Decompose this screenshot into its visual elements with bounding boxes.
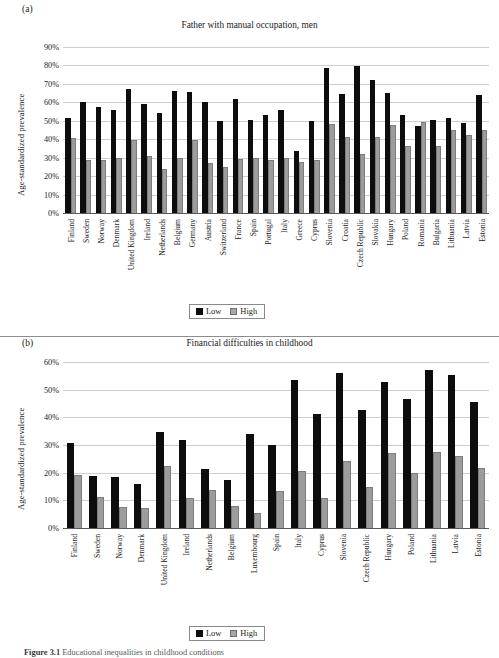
- bar-high: [329, 124, 334, 213]
- x-axis-tick-label: Spain: [249, 219, 258, 236]
- bar-high: [478, 468, 486, 528]
- bar-low: [134, 484, 142, 528]
- y-axis-tick-label: 30%: [44, 441, 59, 450]
- x-axis-tick-label: Finland: [70, 534, 79, 557]
- x-axis-tick-label: Slovakia: [370, 219, 379, 246]
- x-axis-tick-label: Slovenia: [339, 534, 348, 561]
- bar-low: [156, 432, 164, 528]
- bar-high: [209, 490, 217, 528]
- bar-high: [186, 498, 194, 528]
- bar-group: [242, 362, 264, 528]
- bar-group: [413, 47, 428, 213]
- panel-divider: [0, 336, 499, 337]
- bar-high: [482, 130, 487, 213]
- bar-low: [201, 469, 209, 528]
- bar-low: [179, 440, 187, 528]
- bar-group: [246, 47, 261, 213]
- bar-low: [291, 380, 299, 528]
- bar-group: [467, 362, 489, 528]
- x-axis-tick: Hungary: [383, 217, 398, 287]
- panel-a-legend: Low High: [189, 304, 265, 319]
- y-axis-tick-label: 20%: [44, 468, 59, 477]
- x-axis-tick-label: Lithuania: [428, 534, 437, 563]
- x-axis-tick: Netherlands: [154, 217, 169, 287]
- x-axis-tick-label: Portugal: [264, 219, 273, 245]
- x-axis-tick: Lithuania: [422, 532, 444, 602]
- bar-group: [108, 362, 130, 528]
- x-axis-tick: Spain: [265, 532, 287, 602]
- x-axis-tick-label: Slovenia: [325, 219, 334, 246]
- x-axis-tick-label: Hungary: [386, 219, 395, 246]
- y-axis-tick-label: 60%: [44, 358, 59, 367]
- x-axis-tick: Ireland: [139, 217, 154, 287]
- x-axis-tick: Switzerland: [215, 217, 230, 287]
- bar-group: [307, 47, 322, 213]
- bar-high: [208, 163, 213, 213]
- x-axis-tick-label: Romania: [416, 219, 425, 246]
- bar-low: [246, 434, 254, 528]
- x-axis-tick: Denmark: [109, 217, 124, 287]
- bar-group: [354, 362, 376, 528]
- x-axis-tick: Estonia: [467, 532, 489, 602]
- x-axis-tick: Sweden: [85, 532, 107, 602]
- x-axis-tick: United Kingdom: [153, 532, 175, 602]
- x-axis-tick: Lithuania: [443, 217, 458, 287]
- bar-group: [261, 47, 276, 213]
- bar-group: [220, 362, 242, 528]
- panel-b-bars: [63, 362, 489, 528]
- bar-high: [405, 146, 410, 213]
- bar-group: [367, 47, 382, 213]
- legend-item-high: High: [230, 629, 257, 638]
- x-axis-tick: Poland: [399, 532, 421, 602]
- y-axis-tick-label: 40%: [44, 135, 59, 144]
- bar-group: [153, 362, 175, 528]
- y-axis-tick-label: 50%: [44, 116, 59, 125]
- bar-low: [111, 477, 119, 528]
- figure-container: (a) Father with manual occupation, men A…: [0, 0, 499, 658]
- bar-high: [74, 475, 82, 528]
- x-axis-tick-label: Latvia: [462, 219, 471, 238]
- bar-low: [268, 445, 276, 528]
- bar-high: [366, 487, 374, 528]
- x-axis-tick: Greece: [291, 217, 306, 287]
- y-axis-tick-label: 0%: [48, 524, 59, 533]
- y-axis-tick-label: 70%: [44, 79, 59, 88]
- bar-group: [443, 47, 458, 213]
- bar-low: [470, 402, 478, 528]
- bar-high: [455, 456, 463, 528]
- gridline: [63, 213, 489, 214]
- x-axis-tick-label: Lithuania: [447, 219, 456, 248]
- legend-label-low: Low: [206, 629, 221, 638]
- bar-high: [162, 169, 167, 213]
- bar-group: [170, 47, 185, 213]
- bar-high: [147, 156, 152, 213]
- bar-high: [253, 158, 258, 213]
- x-axis-tick: United Kingdom: [124, 217, 139, 287]
- x-axis-tick-label: Greece: [294, 219, 303, 241]
- panel-a-x-axis-labels: FinlandSwedenNorwayDenmarkUnited Kingdom…: [63, 217, 489, 287]
- legend-swatch-low-icon: [196, 308, 203, 315]
- bar-low: [448, 375, 456, 528]
- x-axis-tick-label: Netherlands: [204, 534, 213, 571]
- x-axis-tick-label: Ireland: [142, 219, 151, 241]
- x-axis-tick: Belgium: [170, 217, 185, 287]
- x-axis-tick-label: Estonia: [477, 219, 486, 242]
- x-axis-tick: Spain: [246, 217, 261, 287]
- bar-high: [421, 122, 426, 213]
- bar-high: [268, 160, 273, 213]
- y-axis-tick-label: 80%: [44, 61, 59, 70]
- legend-swatch-high-icon: [230, 308, 237, 315]
- bar-high: [238, 159, 243, 213]
- bar-low: [89, 476, 97, 528]
- panel-a-letter: (a): [22, 4, 33, 14]
- y-axis-tick-label: 20%: [44, 172, 59, 181]
- bar-high: [141, 508, 149, 528]
- bar-low: [403, 399, 411, 528]
- x-axis-tick: Croatia: [337, 217, 352, 287]
- x-axis-tick: Norway: [108, 532, 130, 602]
- x-axis-tick-label: Spain: [272, 534, 281, 551]
- bar-high: [466, 135, 471, 213]
- x-axis-tick-label: Latvia: [451, 534, 460, 553]
- legend-item-low: Low: [196, 307, 221, 316]
- x-axis-tick: Finland: [63, 217, 78, 287]
